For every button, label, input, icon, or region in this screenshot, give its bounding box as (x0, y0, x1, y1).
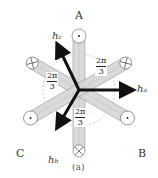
vector-label-hc: hc (52, 31, 62, 41)
phase-label-a: A (75, 10, 83, 21)
vector-label-hb: hb (48, 155, 58, 165)
phase-label-b: B (138, 148, 146, 159)
figure-caption: (a) (72, 162, 84, 172)
angle-label-top-right: 2π3 (95, 57, 107, 76)
angle-label-bottom: 2π3 (74, 108, 86, 127)
three-phase-winding-diagram: A B C ha hb hc 2π3 2π3 2π3 (a) (0, 0, 158, 178)
phase-label-c: C (16, 148, 24, 159)
angle-label-left: 2π3 (46, 72, 58, 91)
vector-label-ha: ha (137, 84, 147, 94)
